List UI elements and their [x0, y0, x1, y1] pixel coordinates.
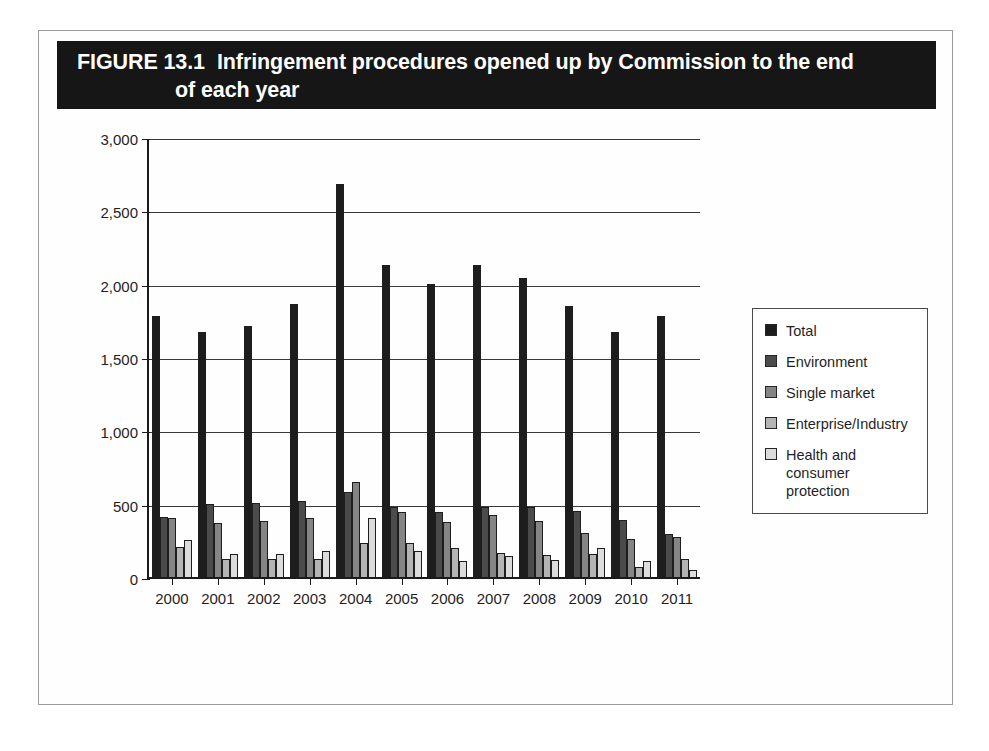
- x-tick-mark: [356, 577, 357, 585]
- axis-box: 3,0002,5002,0001,5001,0005000 2000200120…: [147, 139, 700, 579]
- bar-group: 2005: [379, 139, 425, 577]
- bar: [611, 332, 619, 577]
- legend-item-label: Health and consumer protection: [786, 446, 917, 500]
- bar: [459, 561, 467, 577]
- bar: [168, 518, 176, 577]
- y-tick-label: 500: [113, 497, 138, 514]
- bar-group: 2010: [608, 139, 654, 577]
- figure-title-line-1: FIGURE 13.1Infringement procedures opene…: [77, 48, 920, 76]
- x-tick-label: 2002: [247, 590, 280, 607]
- y-tick-label: 3,000: [100, 131, 138, 148]
- bar: [368, 518, 376, 577]
- bar: [627, 539, 635, 577]
- bar: [398, 512, 406, 577]
- legend-item[interactable]: Total: [765, 322, 917, 340]
- bar: [244, 326, 252, 577]
- x-tick-label: 2001: [201, 590, 234, 607]
- bar: [427, 284, 435, 577]
- bar: [519, 278, 527, 577]
- bar: [298, 501, 306, 577]
- figure-header: FIGURE 13.1Infringement procedures opene…: [57, 41, 936, 109]
- bar: [665, 534, 673, 577]
- bar: [344, 492, 352, 577]
- bar: [382, 265, 390, 577]
- bar: [252, 503, 260, 577]
- bar-group: 2007: [470, 139, 516, 577]
- bar: [527, 507, 535, 577]
- legend-item[interactable]: Health and consumer protection: [765, 446, 917, 500]
- bar: [306, 518, 314, 577]
- bar: [473, 265, 481, 577]
- bar-group: 2008: [516, 139, 562, 577]
- x-tick-mark: [218, 577, 219, 585]
- x-tick-label: 2006: [431, 590, 464, 607]
- bar: [451, 548, 459, 577]
- bar: [505, 556, 513, 577]
- bar: [406, 543, 414, 577]
- bar: [681, 559, 689, 577]
- bar: [565, 306, 573, 577]
- figure-card: FIGURE 13.1Infringement procedures opene…: [38, 30, 953, 705]
- x-tick-label: 2007: [477, 590, 510, 607]
- bar: [657, 316, 665, 577]
- bar: [152, 316, 160, 577]
- x-tick-mark: [631, 577, 632, 585]
- bar: [360, 543, 368, 577]
- bar: [643, 561, 651, 577]
- y-tick-mark: [142, 579, 150, 580]
- bar-group: 2011: [654, 139, 700, 577]
- bar: [635, 567, 643, 577]
- y-tick-label: 1,500: [100, 351, 138, 368]
- x-tick-mark: [585, 577, 586, 585]
- bar: [435, 512, 443, 577]
- bar-group: 2001: [195, 139, 241, 577]
- bar: [497, 553, 505, 577]
- bar: [543, 555, 551, 577]
- bar: [597, 548, 605, 577]
- figure-title-text-1: Infringement procedures opened up by Com…: [217, 50, 854, 74]
- y-tick-label: 1,000: [100, 424, 138, 441]
- bar: [222, 559, 230, 577]
- bar: [619, 520, 627, 577]
- x-tick-label: 2003: [293, 590, 326, 607]
- x-tick-label: 2000: [155, 590, 188, 607]
- bar: [260, 521, 268, 577]
- bar-group: 2000: [149, 139, 195, 577]
- bar: [689, 570, 697, 577]
- x-tick-label: 2011: [661, 590, 693, 607]
- x-tick-mark: [493, 577, 494, 585]
- x-tick-label: 2004: [339, 590, 372, 607]
- x-tick-label: 2009: [569, 590, 602, 607]
- bar: [481, 507, 489, 577]
- figure-number: FIGURE 13.1: [77, 50, 205, 74]
- x-tick-mark: [447, 577, 448, 585]
- bar: [206, 504, 214, 577]
- legend-item[interactable]: Single market: [765, 384, 917, 402]
- bar: [673, 537, 681, 577]
- bar: [551, 560, 559, 577]
- chart-legend: TotalEnvironmentSingle marketEnterprise/…: [752, 308, 928, 514]
- bar: [581, 533, 589, 577]
- legend-swatch-icon: [765, 448, 777, 460]
- bar: [160, 517, 168, 577]
- x-tick-label: 2005: [385, 590, 418, 607]
- bar: [184, 540, 192, 577]
- legend-item-label: Enterprise/Industry: [786, 415, 908, 433]
- bar: [414, 551, 422, 577]
- legend-item[interactable]: Environment: [765, 353, 917, 371]
- bar: [589, 554, 597, 577]
- bar: [390, 507, 398, 577]
- bar: [489, 515, 497, 577]
- legend-swatch-icon: [765, 355, 777, 367]
- x-tick-mark: [310, 577, 311, 585]
- legend-item-label: Environment: [786, 353, 867, 371]
- bar: [322, 551, 330, 577]
- bar: [573, 511, 581, 577]
- legend-swatch-icon: [765, 324, 777, 336]
- bar: [352, 482, 360, 577]
- figure-title-line-2: of each year: [77, 76, 920, 104]
- legend-item[interactable]: Enterprise/Industry: [765, 415, 917, 433]
- y-tick-label: 0: [130, 571, 138, 588]
- x-tick-label: 2008: [523, 590, 556, 607]
- x-tick-mark: [677, 577, 678, 585]
